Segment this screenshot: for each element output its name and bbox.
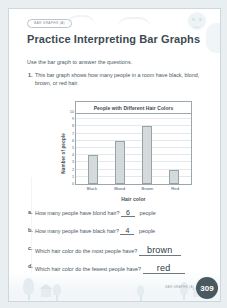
x-tick: Blond [111,186,129,191]
bar-chart: People with Different Hair Colors Number… [75,101,192,193]
footer-label: BAR GRAPHS (A) [165,285,194,289]
y-tick: 2 [72,169,74,173]
worksheet-page: BAR GRAPHS (A) Practice Interpreting Bar… [8,8,221,302]
y-tick: 7 [72,133,74,137]
tree-decoration-icon [137,285,144,296]
y-axis-ticks: 109876543210 [67,113,74,185]
y-tick: 6 [72,140,74,144]
house-decoration-icon [41,289,51,297]
answer-input-c[interactable]: brown [139,245,181,256]
corner-decoration [206,23,220,53]
answer-letter: b. [28,227,33,233]
answer-input-a[interactable]: 6 [121,209,135,217]
bar-blond [115,141,125,184]
y-tick: 3 [72,161,74,165]
x-axis-label: Hair color [75,196,192,202]
y-tick: 0 [72,183,74,187]
y-tick: 9 [72,118,74,122]
answer-prompt: Which hair color do the fewest people ha… [35,266,141,272]
answer-prompt: Which hair color do the most people have… [35,248,137,254]
chart-plot-area: Number of people 109876543210 BlackBlond… [75,113,192,193]
answer-row-c: c. Which hair color do the most people h… [35,245,215,256]
x-tick: Brown [138,186,156,191]
answer-letter: d. [28,263,33,269]
answer-input-b[interactable]: 4 [120,227,134,235]
bar-series [76,114,191,184]
y-tick: 4 [72,154,74,158]
answer-letter: c. [28,245,33,251]
answer-unit: people [140,210,156,216]
y-tick: 10 [70,111,74,115]
x-tick: Black [83,186,101,191]
bar-black [88,155,98,184]
question-1: 1. This bar graph shows how many people … [35,71,205,88]
y-tick: 5 [72,147,74,151]
answer-unit: people [139,228,155,234]
x-tick: Red [166,186,184,191]
answer-row-a: a. How many people have blond hair? 6 pe… [35,209,215,217]
tree-decoration-icon [53,284,61,296]
y-tick: 8 [72,125,74,129]
page-title: Practice Interpreting Bar Graphs [27,33,200,45]
answer-input-d[interactable]: red [143,263,185,274]
page-number-badge: 309 [196,277,218,299]
question-number: 1. [28,71,33,79]
margin-rule [31,177,32,273]
x-axis-ticks: BlackBlondBrownRed [75,186,192,191]
tree-decoration-icon [23,278,34,295]
answer-prompt: How many people have blond hair? [35,210,120,216]
sun-smile-decoration-icon [193,23,201,28]
answer-row-b: b. How many people have black hair? 4 pe… [35,227,215,235]
instruction-text: Use the bar graph to answer the question… [27,59,132,65]
answer-letter: a. [28,209,33,215]
chart-title: People with Different Hair Colors [75,101,192,113]
bar-red [169,170,179,184]
plot-frame [75,113,192,185]
answer-row-d: d. Which hair color do the fewest people… [35,263,215,274]
answer-prompt: How many people have black hair? [35,228,119,234]
question-text: This bar graph shows how many people in … [35,72,199,86]
topic-badge: BAR GRAPHS (A) [27,19,72,28]
y-tick: 1 [72,176,74,180]
cloud-decoration-icon [117,17,151,29]
bar-brown [142,126,152,184]
